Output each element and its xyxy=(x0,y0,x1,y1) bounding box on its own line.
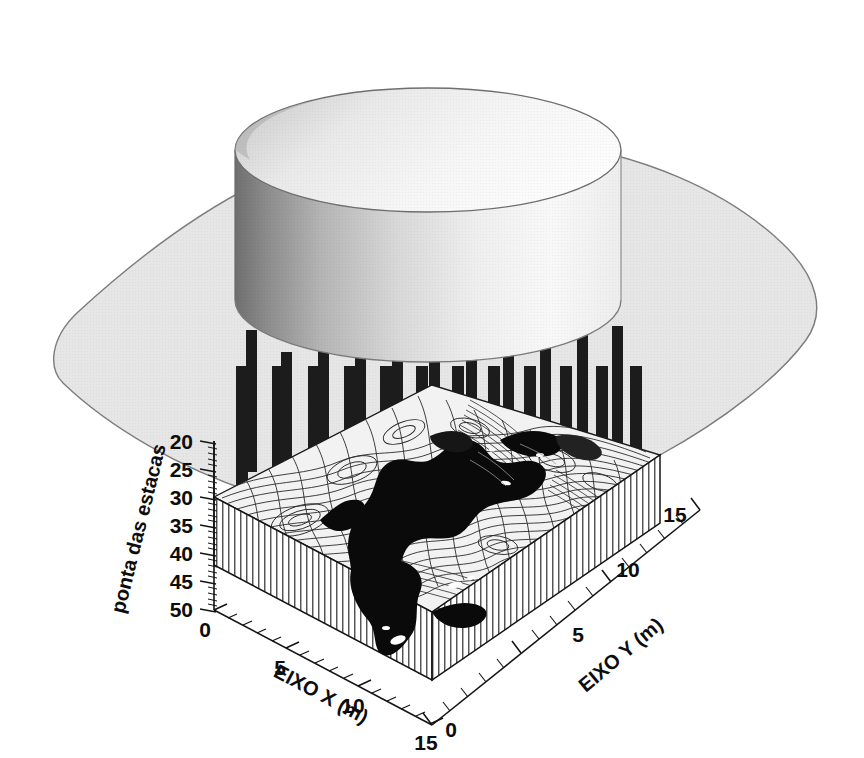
z-tick-label: 40 xyxy=(170,542,193,565)
cylindrical-tank xyxy=(235,88,621,362)
figure-3d-pile-foundation: 20 25 30 35 40 45 50 ponta das estacas xyxy=(0,0,864,758)
y-tick-label: 5 xyxy=(572,623,584,646)
y-tick-label: 0 xyxy=(445,718,457,741)
z-tick-label: 20 xyxy=(170,430,193,453)
z-tick-label: 35 xyxy=(170,514,194,537)
pile xyxy=(236,366,248,494)
z-tick-label: 25 xyxy=(170,458,194,481)
y-tick-label: 15 xyxy=(663,503,687,526)
x-tick-label: 15 xyxy=(414,731,438,754)
x-tick-label: 0 xyxy=(199,618,211,641)
z-tick-label: 45 xyxy=(170,570,194,593)
z-tick-label: 50 xyxy=(170,598,193,621)
y-tick-label: 10 xyxy=(616,558,639,581)
z-tick-label: 30 xyxy=(170,486,193,509)
